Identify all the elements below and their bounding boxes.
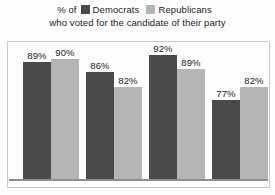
bar-label-republicans-4: 82% bbox=[239, 75, 269, 86]
bar-group-3: 92% 89% bbox=[149, 47, 205, 179]
bar-group-2: 86% 82% bbox=[86, 47, 142, 179]
bar-democrats-2[interactable] bbox=[86, 72, 114, 179]
chart-subtitle: who voted for the candidate of their par… bbox=[0, 16, 275, 29]
bar-democrats-4[interactable] bbox=[212, 100, 240, 179]
legend-swatch-republicans-icon bbox=[146, 5, 155, 14]
bar-label-democrats-4: 77% bbox=[211, 88, 241, 99]
bar-republicans-1[interactable] bbox=[51, 59, 79, 179]
chart-legend: % ofDemocratsRepublicans bbox=[0, 3, 275, 16]
bar-republicans-2[interactable] bbox=[114, 87, 142, 179]
bar-label-democrats-3: 92% bbox=[148, 43, 178, 54]
bar-republicans-4[interactable] bbox=[240, 87, 268, 179]
bar-label-democrats-1: 89% bbox=[22, 50, 52, 61]
plot-area: 89% 90% 86% 82% bbox=[8, 42, 269, 187]
bar-chart-figure: % ofDemocratsRepublicans who voted for t… bbox=[0, 0, 275, 195]
legend-prefix: % of bbox=[57, 4, 76, 15]
bar-democrats-3[interactable] bbox=[149, 55, 177, 179]
legend-swatch-democrats-icon bbox=[81, 5, 90, 14]
bar-democrats-1[interactable] bbox=[23, 62, 51, 179]
bar-label-republicans-2: 82% bbox=[113, 75, 143, 86]
bar-label-democrats-2: 86% bbox=[85, 60, 115, 71]
bar-group-1: 89% 90% bbox=[23, 47, 79, 179]
chart-header: % ofDemocratsRepublicans who voted for t… bbox=[0, 3, 275, 29]
chart-baseline bbox=[9, 179, 268, 181]
plot-frame: 89% 90% 86% 82% bbox=[7, 41, 270, 188]
bar-label-republicans-3: 89% bbox=[176, 57, 206, 68]
legend-label-republicans: Republicans bbox=[158, 4, 211, 15]
bar-label-republicans-1: 90% bbox=[50, 47, 80, 58]
legend-label-democrats: Democrats bbox=[93, 4, 140, 15]
bar-republicans-3[interactable] bbox=[177, 69, 205, 179]
bar-group-4: 77% 82% bbox=[212, 47, 268, 179]
